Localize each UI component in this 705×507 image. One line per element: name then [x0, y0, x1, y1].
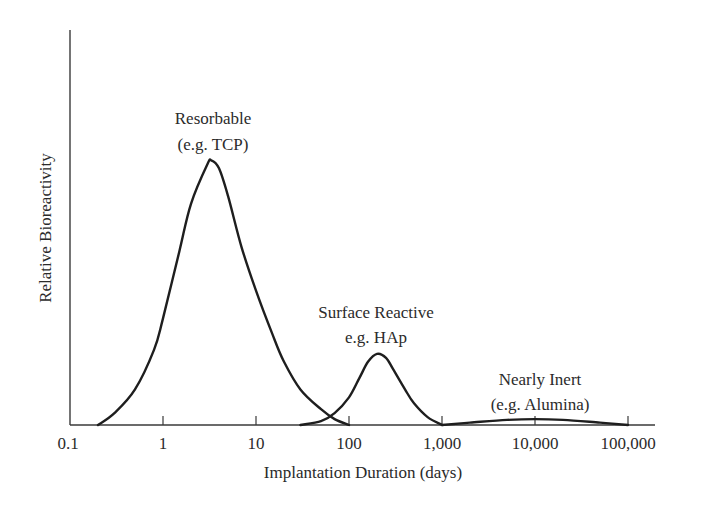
x-tick-label: 1,000: [423, 434, 461, 454]
x-tick-label: 10: [248, 434, 265, 454]
x-tick-label: 100,000: [600, 434, 655, 454]
nearly-inert-example-label: (e.g. Alumina): [491, 396, 590, 413]
bioreactivity-chart: [0, 0, 705, 507]
x-tick-label: 100: [336, 434, 362, 454]
surface-reactive-label: Surface Reactive: [318, 304, 434, 321]
surface-reactive-curve: [300, 354, 442, 425]
x-tick-label: 0.1: [57, 434, 78, 454]
x-axis-label: Implantation Duration (days): [264, 463, 462, 483]
resorbable-example-label: (e.g. TCP): [178, 136, 249, 153]
x-tick-label: 10,000: [512, 434, 559, 454]
resorbable-label: Resorbable: [175, 110, 251, 127]
surface-reactive-example-label: e.g. HAp: [345, 329, 407, 346]
y-axis-label: Relative Bioreactivity: [36, 153, 56, 303]
x-tick-label: 1: [159, 434, 168, 454]
nearly-inert-label: Nearly Inert: [499, 371, 582, 388]
resorbable-curve: [98, 159, 349, 425]
